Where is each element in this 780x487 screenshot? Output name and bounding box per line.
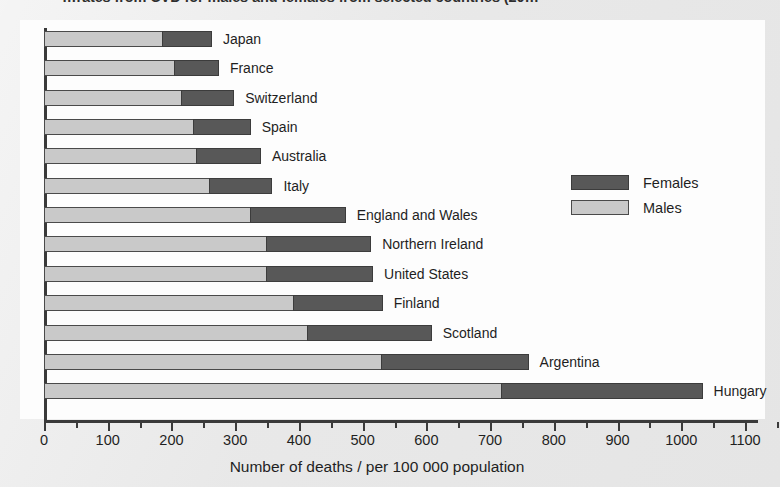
x-axis-minor-tick bbox=[140, 422, 142, 428]
x-axis-tick-label: 700 bbox=[478, 432, 502, 448]
bar-category-label: Argentina bbox=[540, 354, 600, 370]
x-axis-minor-tick bbox=[203, 422, 205, 428]
x-axis-minor-tick bbox=[76, 422, 78, 428]
x-axis-major-tick bbox=[363, 422, 365, 431]
legend-swatch-males-icon bbox=[571, 200, 629, 215]
x-axis-tick-label: 400 bbox=[287, 432, 311, 448]
x-axis-tick-label: 800 bbox=[542, 432, 566, 448]
bar-row bbox=[44, 207, 349, 223]
bar-segment-females bbox=[307, 325, 431, 341]
bar-segment-males bbox=[44, 148, 197, 164]
bar-row bbox=[44, 31, 215, 47]
bar-category-label: Japan bbox=[223, 31, 261, 47]
bar-segment-females bbox=[209, 178, 273, 194]
legend-item-males: Males bbox=[571, 197, 741, 218]
bar-segment-males bbox=[44, 295, 294, 311]
x-axis-minor-tick bbox=[331, 422, 333, 428]
bar-category-label: England and Wales bbox=[357, 207, 478, 223]
x-axis-tick-label: 900 bbox=[605, 432, 629, 448]
bar-segment-females bbox=[293, 295, 383, 311]
x-axis-major-tick bbox=[681, 422, 683, 431]
bar-segment-males bbox=[44, 325, 308, 341]
x-axis-tick-label: 0 bbox=[40, 432, 48, 448]
x-axis-tick-label: 100 bbox=[96, 432, 120, 448]
bar-category-label: Australia bbox=[272, 148, 326, 164]
bar-segment-males bbox=[44, 90, 182, 106]
x-axis-tick-label: 200 bbox=[159, 432, 183, 448]
bar-row bbox=[44, 266, 376, 282]
bar-segment-females bbox=[174, 60, 219, 76]
bar-segment-females bbox=[181, 90, 234, 106]
bar-segment-females bbox=[381, 354, 529, 370]
bar-segment-males bbox=[44, 178, 210, 194]
bar-segment-males bbox=[44, 31, 163, 47]
x-axis-minor-tick bbox=[649, 422, 651, 428]
bar-segment-females bbox=[196, 148, 261, 164]
bar-segment-females bbox=[162, 31, 212, 47]
bar-segment-females bbox=[501, 383, 703, 399]
bar-category-label: Switzerland bbox=[245, 90, 317, 106]
legend-label-males: Males bbox=[643, 200, 682, 216]
bar-category-label: France bbox=[230, 60, 274, 76]
chart-title: …rates from CVD for males and females fr… bbox=[62, 0, 539, 5]
x-axis-minor-tick bbox=[267, 422, 269, 428]
x-axis-minor-tick bbox=[777, 422, 779, 428]
x-axis-tick-label: 1100 bbox=[729, 432, 760, 448]
chart-legend: Females Males bbox=[571, 172, 741, 222]
bar-row bbox=[44, 119, 254, 135]
bar-segment-males bbox=[44, 60, 175, 76]
chart-title-strip: …rates from CVD for males and females fr… bbox=[0, 0, 780, 9]
bar-segment-females bbox=[250, 207, 346, 223]
bar-category-label: Italy bbox=[283, 178, 309, 194]
x-axis-minor-tick bbox=[458, 422, 460, 428]
legend-item-females: Females bbox=[571, 172, 741, 193]
x-axis-major-tick bbox=[554, 422, 556, 431]
bar-segment-females bbox=[193, 119, 251, 135]
bar-segment-females bbox=[266, 266, 373, 282]
bar-row bbox=[44, 148, 264, 164]
bar-row bbox=[44, 325, 435, 341]
bar-segment-males bbox=[44, 354, 382, 370]
legend-label-females: Females bbox=[643, 175, 699, 191]
x-axis-title-text: Number of deaths / per 100 000 populatio… bbox=[230, 458, 525, 476]
bar-category-label: Spain bbox=[262, 119, 298, 135]
x-axis-major-tick bbox=[44, 422, 46, 431]
bar-row bbox=[44, 236, 374, 252]
bar-row bbox=[44, 354, 532, 370]
x-axis-major-tick bbox=[235, 422, 237, 431]
bar-segment-males bbox=[44, 383, 502, 399]
x-axis-minor-tick bbox=[395, 422, 397, 428]
x-axis-major-tick bbox=[108, 422, 110, 431]
legend-swatch-females-icon bbox=[571, 175, 629, 190]
x-axis-major-tick bbox=[171, 422, 173, 431]
bar-segment-males bbox=[44, 266, 267, 282]
bar-row bbox=[44, 178, 275, 194]
bar-segment-males bbox=[44, 119, 194, 135]
x-axis-minor-tick bbox=[586, 422, 588, 428]
bar-row bbox=[44, 295, 386, 311]
x-axis-major-tick bbox=[745, 422, 747, 431]
x-axis-major-tick bbox=[299, 422, 301, 431]
bar-category-label: Hungary bbox=[714, 383, 767, 399]
x-axis-minor-tick bbox=[713, 422, 715, 428]
bar-row bbox=[44, 60, 222, 76]
bar-segment-males bbox=[44, 236, 267, 252]
x-axis-major-tick bbox=[618, 422, 620, 431]
bar-row bbox=[44, 383, 706, 399]
x-axis-tick-label: 300 bbox=[223, 432, 247, 448]
bar-category-label: Scotland bbox=[443, 325, 497, 341]
x-axis-tick-label: 1000 bbox=[665, 432, 697, 448]
x-axis-major-tick bbox=[426, 422, 428, 431]
bar-segment-females bbox=[266, 236, 371, 252]
bar-category-label: Northern Ireland bbox=[382, 236, 483, 252]
x-axis-major-tick bbox=[490, 422, 492, 431]
x-axis-title: Number of deaths / per 100 000 populatio… bbox=[0, 458, 780, 476]
x-axis-tick-label: 600 bbox=[414, 432, 438, 448]
bar-segment-males bbox=[44, 207, 251, 223]
bar-row bbox=[44, 90, 237, 106]
x-axis-tick-label: 500 bbox=[351, 432, 375, 448]
bar-category-label: United States bbox=[384, 266, 468, 282]
bar-category-label: Finland bbox=[394, 295, 440, 311]
x-axis-minor-tick bbox=[522, 422, 524, 428]
